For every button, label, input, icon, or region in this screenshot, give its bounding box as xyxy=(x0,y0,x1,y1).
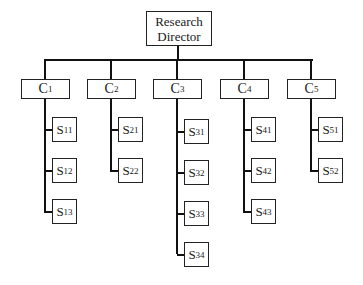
node-subscript: 11 xyxy=(64,125,73,135)
sub-box-s43: S43 xyxy=(251,199,276,224)
node-subscript: 13 xyxy=(64,207,73,217)
node-subscript: 22 xyxy=(130,166,139,176)
sub-box-s12: S12 xyxy=(52,158,77,183)
sub-box-s13: S13 xyxy=(52,199,77,224)
column-spine-line xyxy=(176,99,178,254)
node-subscript: 1 xyxy=(48,84,53,94)
node-letter: S xyxy=(57,122,64,138)
node-letter: S xyxy=(188,247,195,263)
sub-box-s21: S21 xyxy=(118,117,143,142)
node-subscript: 51 xyxy=(330,125,339,135)
node-letter: S xyxy=(56,204,63,220)
node-letter: S xyxy=(122,122,129,138)
node-letter: S xyxy=(188,124,195,140)
node-letter: S xyxy=(188,206,195,222)
column-drop-line xyxy=(110,60,112,79)
node-letter: C xyxy=(105,81,114,97)
sub-box-s31: S31 xyxy=(184,119,209,144)
column-spine-line xyxy=(310,99,312,172)
sub-box-s51: S51 xyxy=(318,117,343,142)
node-letter: C xyxy=(171,81,180,97)
node-subscript: 3 xyxy=(180,84,185,94)
sub-box-s34: S34 xyxy=(184,242,209,267)
column-drop-line xyxy=(176,60,178,79)
node-subscript: 4 xyxy=(247,84,252,94)
column-box-c4: C4 xyxy=(220,79,269,99)
node-subscript: 43 xyxy=(263,207,272,217)
node-subscript: 41 xyxy=(263,125,272,135)
column-spine-line xyxy=(44,99,46,213)
director-label-line1: Research xyxy=(155,14,203,29)
node-subscript: 2 xyxy=(114,84,119,94)
node-subscript: 21 xyxy=(130,125,139,135)
director-label-line2: Director xyxy=(157,29,200,44)
horizontal-connector-line xyxy=(44,59,313,61)
node-subscript: 32 xyxy=(196,168,205,178)
column-box-c5: C5 xyxy=(287,79,336,99)
sub-box-s42: S42 xyxy=(251,158,276,183)
node-subscript: 33 xyxy=(196,209,205,219)
node-letter: C xyxy=(39,81,48,97)
node-subscript: 34 xyxy=(196,250,205,260)
node-subscript: 42 xyxy=(263,166,272,176)
research-director-box: Research Director xyxy=(146,11,212,46)
node-subscript: 12 xyxy=(64,166,73,176)
node-letter: S xyxy=(255,163,262,179)
node-letter: C xyxy=(305,81,314,97)
node-letter: C xyxy=(238,81,247,97)
node-letter: S xyxy=(255,204,262,220)
node-letter: S xyxy=(188,165,195,181)
column-box-c2: C2 xyxy=(87,79,136,99)
column-box-c1: C1 xyxy=(21,79,70,99)
sub-box-s41: S41 xyxy=(251,117,276,142)
sub-box-s32: S32 xyxy=(184,160,209,185)
column-spine-line xyxy=(243,99,245,213)
sub-box-s11: S11 xyxy=(52,117,77,142)
column-drop-line xyxy=(310,60,312,79)
column-box-c3: C3 xyxy=(153,79,202,99)
node-subscript: 5 xyxy=(314,84,319,94)
sub-box-s52: S52 xyxy=(318,158,343,183)
node-letter: S xyxy=(255,122,262,138)
node-letter: S xyxy=(56,163,63,179)
column-spine-line xyxy=(110,99,112,172)
node-subscript: 31 xyxy=(196,127,205,137)
sub-box-s33: S33 xyxy=(184,201,209,226)
sub-box-s22: S22 xyxy=(118,158,143,183)
column-drop-line xyxy=(44,60,46,79)
node-subscript: 52 xyxy=(330,166,339,176)
column-drop-line xyxy=(243,60,245,79)
node-letter: S xyxy=(322,122,329,138)
node-letter: S xyxy=(322,163,329,179)
node-letter: S xyxy=(122,163,129,179)
